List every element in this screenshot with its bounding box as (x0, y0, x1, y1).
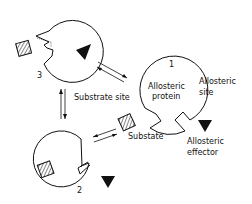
allosteric-site-label-line1: Allosteric (199, 77, 236, 86)
bound-substrate-square-icon (37, 161, 54, 178)
state-2-label: 2 (77, 186, 82, 195)
effector-label-line1: Allosteric (187, 137, 224, 146)
equilibrium-arrows-3-1 (97, 62, 127, 82)
allosteric-diagram: 3 1 Allosteric protein Substrate site Al… (0, 0, 252, 204)
state-1-label: 1 (169, 60, 174, 69)
effector-triangle-icon (76, 44, 91, 60)
effector-triangle-near-2-icon (101, 176, 115, 188)
effector-label-line2: effector (187, 148, 219, 157)
protein-state-3: 3 (16, 20, 104, 82)
allosteric-site-label-line2: site (199, 88, 214, 97)
free-substrate-square-icon (118, 114, 135, 131)
free-effector-triangle-icon (198, 120, 212, 132)
substrate-label: Substate (128, 132, 164, 141)
substrate-site-label: Substrate site (74, 93, 130, 102)
protein-state-1: 1 Allosteric protein (140, 56, 208, 134)
equilibrium-arrows-1-2 (93, 129, 117, 142)
equilibrium-arrows-3-2 (59, 89, 67, 119)
protein-label-line2: protein (152, 92, 180, 101)
substrate-square-icon (16, 40, 32, 56)
state-3-label: 3 (37, 71, 42, 80)
protein-state-2: 2 (33, 131, 90, 195)
protein-label-line1: Allosteric (148, 82, 185, 91)
